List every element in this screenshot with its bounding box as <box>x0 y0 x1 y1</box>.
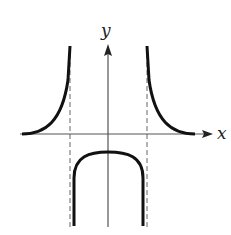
right-branch-curve <box>147 46 195 134</box>
x-axis-label: x <box>217 123 227 143</box>
y-axis-label: y <box>100 20 111 40</box>
left-branch-curve <box>22 46 70 134</box>
function-plot: x y <box>0 0 231 235</box>
